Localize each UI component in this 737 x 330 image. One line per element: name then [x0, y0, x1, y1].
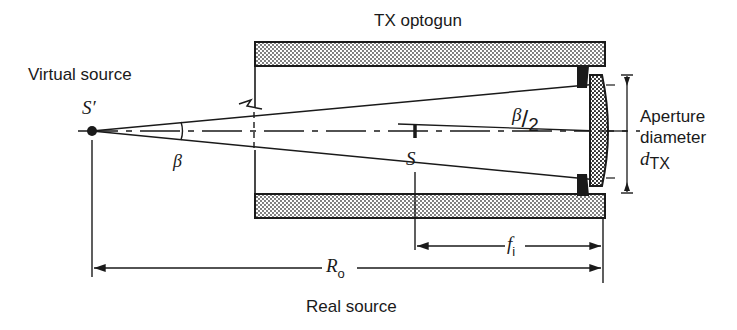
title-label: TX optogun	[374, 12, 462, 29]
aperture-subscript: TX	[650, 155, 670, 172]
aperture-label: Aperture diameter dTX	[640, 106, 706, 170]
virtual-source-dot	[87, 126, 97, 136]
half-beta-denominator: 2	[528, 114, 539, 135]
virtual-source-label: Virtual source	[28, 66, 132, 83]
focal-subscript: i	[512, 244, 515, 259]
aperture-line2: diameter	[640, 127, 706, 148]
beta-arc	[181, 122, 183, 140]
real-source-point-label: S	[406, 149, 416, 168]
aperture-line1: Aperture	[640, 106, 706, 127]
aperture-stop-bottom	[577, 174, 589, 196]
aperture-symbol: d	[640, 148, 650, 169]
virtual-point-label: S′	[82, 98, 96, 117]
half-beta-label: β/2	[512, 107, 539, 131]
lower-ray	[92, 131, 598, 180]
range-label: Ro	[326, 256, 345, 275]
real-source-label: Real source	[306, 298, 397, 315]
beta-label: β	[173, 152, 182, 170]
half-beta-numerator: β	[512, 104, 521, 125]
aperture-stop-top	[577, 66, 589, 88]
break-mark-icon	[239, 100, 262, 109]
focal-length-label: fi	[507, 234, 515, 253]
diagram-drawing	[0, 0, 737, 330]
range-subscript: o	[338, 266, 345, 281]
tube-top-wall	[255, 42, 605, 66]
tube-bottom-wall	[255, 194, 605, 218]
optogun-diagram: TX optogun Virtual source S′ β S β/2 Ape…	[0, 0, 737, 330]
range-symbol: R	[326, 255, 338, 276]
